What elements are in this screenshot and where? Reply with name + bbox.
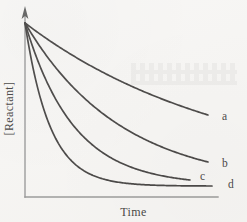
axes-group — [22, 6, 218, 197]
decay-curve-c — [25, 23, 190, 180]
curve-label-d: d — [228, 178, 234, 190]
curve-label-a: a — [222, 110, 227, 122]
axis-captions-group: [Reactant] Time — [2, 82, 147, 219]
curve-label-c: c — [200, 170, 205, 182]
y-axis-label: [Reactant] — [2, 82, 16, 136]
x-axis-label: Time — [120, 205, 147, 219]
decay-curve-a — [25, 23, 208, 115]
curves-group — [25, 23, 212, 186]
curve-label-b: b — [222, 157, 228, 169]
reactant-decay-figure: a b c d [Reactant] Time — [0, 0, 247, 222]
decay-chart-svg: a b c d [Reactant] Time — [0, 0, 247, 222]
curve-labels-group: a b c d — [200, 110, 234, 190]
